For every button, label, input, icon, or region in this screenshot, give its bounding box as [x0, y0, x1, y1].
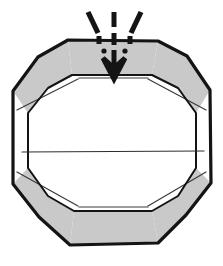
- impact-dot-right: [122, 48, 127, 53]
- line-art-diagram: [0, 0, 223, 266]
- facet-bottom: [70, 211, 158, 245]
- figure-root: [0, 0, 223, 266]
- interior-white-panel: [28, 75, 196, 211]
- impact-dot-left: [101, 48, 106, 53]
